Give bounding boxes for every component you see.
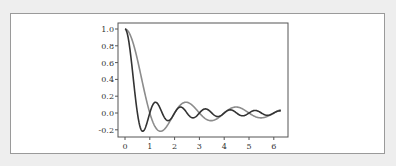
x-tick-label: 5 (246, 142, 251, 151)
y-tick-label: 1.0 (101, 25, 114, 34)
y-axis: 1.00.80.60.40.20.0-0.2 (99, 25, 118, 135)
x-tick-label: 6 (271, 142, 276, 151)
plot-area (118, 23, 288, 137)
y-tick-label: -0.2 (99, 126, 114, 135)
y-tick-label: 0.0 (101, 109, 114, 118)
y-tick-label: 0.2 (101, 92, 114, 101)
y-tick-label: 0.8 (101, 42, 114, 51)
y-tick-label: 0.4 (101, 75, 114, 84)
x-tick-label: 1 (147, 142, 152, 151)
y-tick-label: 0.6 (101, 59, 114, 68)
x-axis: 0123456 (122, 137, 276, 151)
x-tick-label: 3 (197, 142, 202, 151)
x-tick-label: 4 (222, 142, 227, 151)
sinc-line-chart: 1.00.80.60.40.20.0-0.2 0123456 (0, 0, 396, 166)
x-tick-label: 0 (122, 142, 127, 151)
x-tick-label: 2 (172, 142, 177, 151)
